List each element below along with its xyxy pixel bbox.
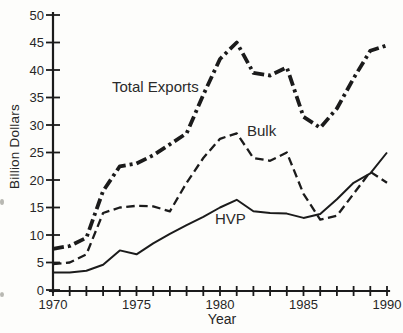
y-tick-label: 40 xyxy=(30,63,44,78)
series-label-total-exports: Total Exports xyxy=(112,78,199,95)
y-axis-title: Billion Dollars xyxy=(7,90,22,203)
y-tick-label: 20 xyxy=(30,173,44,188)
x-axis-title: Year xyxy=(180,311,264,327)
y-tick-label: 0 xyxy=(37,283,44,298)
scan-speck xyxy=(0,292,4,297)
y-tick-label: 35 xyxy=(30,90,44,105)
x-tick-label: 1975 xyxy=(122,297,151,312)
y-tick-label: 15 xyxy=(30,200,44,215)
scan-speck xyxy=(0,199,4,205)
series-label-bulk: Bulk xyxy=(247,122,276,139)
line-chart-canvas: 0510152025303540455019701975198019851990 xyxy=(0,0,403,333)
x-tick-label: 1990 xyxy=(373,297,402,312)
x-tick-label: 1985 xyxy=(289,297,318,312)
y-tick-label: 25 xyxy=(30,145,44,160)
y-tick-label: 30 xyxy=(30,118,44,133)
y-tick-label: 10 xyxy=(30,228,44,243)
y-tick-label: 5 xyxy=(37,255,44,270)
x-tick-label: 1980 xyxy=(206,297,235,312)
y-tick-label: 50 xyxy=(30,8,44,23)
series-label-hvp: HVP xyxy=(215,210,246,227)
y-tick-label: 45 xyxy=(30,35,44,50)
x-tick-label: 1970 xyxy=(39,297,68,312)
agricultural-exports-chart-figure: 0510152025303540455019701975198019851990… xyxy=(0,0,403,333)
